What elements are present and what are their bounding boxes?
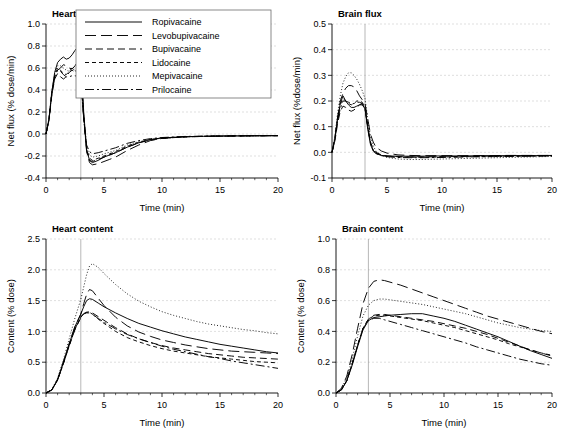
y-tick-label: 0.0 <box>317 388 330 398</box>
y-tick-label: 1.0 <box>27 327 40 337</box>
y-tick-label: 0.5 <box>27 357 40 367</box>
legend-label-bupivacaine: Bupivacaine <box>152 44 201 54</box>
x-axis-title: Time (min) <box>139 417 184 428</box>
panel-brain-flux: -0.10.00.10.20.30.40.505101520Time (min)… <box>290 0 563 215</box>
y-tick-label: 0.4 <box>313 45 326 55</box>
legend-label-mepivacaine: Mepivacaine <box>152 71 203 81</box>
y-tick-label: 1.0 <box>27 19 40 29</box>
x-tick-label: 10 <box>157 185 167 195</box>
x-tick-label: 10 <box>157 400 167 410</box>
x-axis-title: Time (min) <box>421 417 466 428</box>
y-axis-title: Content (% dose) <box>295 279 306 353</box>
y-tick-label: 0.8 <box>317 265 330 275</box>
panel-title: Heart content <box>52 223 114 234</box>
y-tick-label: 0.2 <box>27 107 40 117</box>
heart-content-chart: 0.00.51.01.52.02.505101520Time (min)Cont… <box>0 215 290 430</box>
x-tick-label: 0 <box>329 185 334 195</box>
y-tick-label: -0.1 <box>310 173 326 183</box>
x-tick-label: 10 <box>439 400 449 410</box>
y-tick-label: 0.1 <box>313 122 326 132</box>
y-tick-label: 0.0 <box>27 388 40 398</box>
y-tick-label: 0.6 <box>27 63 40 73</box>
brain-content-chart: 0.00.20.40.60.81.005101520Time (min)Cont… <box>290 215 563 430</box>
x-tick-label: 20 <box>547 185 557 195</box>
y-tick-label: 0.4 <box>317 327 330 337</box>
y-tick-label: 0.0 <box>313 148 326 158</box>
y-tick-label: 0.5 <box>313 19 326 29</box>
brain-flux-chart: -0.10.00.10.20.30.40.505101520Time (min)… <box>290 0 563 215</box>
y-axis-title: Net flux (%dose/min) <box>291 57 302 145</box>
legend: RopivacaineLevobupivacaineBupivacaineLid… <box>76 10 271 98</box>
y-tick-label: 1.5 <box>27 296 40 306</box>
legend-label-ropivacaine: Ropivacaine <box>152 17 202 27</box>
y-tick-label: -0.2 <box>24 151 40 161</box>
x-axis-title: Time (min) <box>419 202 464 213</box>
x-tick-label: 20 <box>273 400 283 410</box>
y-tick-label: 0.3 <box>313 71 326 81</box>
y-tick-label: 0.6 <box>317 296 330 306</box>
y-tick-label: 2.5 <box>27 234 40 244</box>
heart-flux-chart: -0.4-0.20.00.20.40.60.81.005101520Time (… <box>0 0 290 215</box>
x-tick-label: 20 <box>547 400 557 410</box>
y-axis-title: Content (% dose) <box>5 279 16 353</box>
panel-title: Brain flux <box>338 8 383 19</box>
panel-brain-content: 0.00.20.40.60.81.005101520Time (min)Cont… <box>290 215 563 430</box>
panel-title: Brain content <box>342 223 404 234</box>
y-tick-label: -0.4 <box>24 173 40 183</box>
x-tick-label: 20 <box>273 185 283 195</box>
y-tick-label: 0.0 <box>27 129 40 139</box>
y-tick-label: 0.4 <box>27 85 40 95</box>
x-tick-label: 0 <box>333 400 338 410</box>
panel-heart-flux: -0.4-0.20.00.20.40.60.81.005101520Time (… <box>0 0 290 215</box>
x-tick-label: 5 <box>387 400 392 410</box>
y-tick-label: 0.8 <box>27 41 40 51</box>
legend-label-levobupivacaine: Levobupivacaine <box>152 31 220 41</box>
panel-heart-content: 0.00.51.01.52.02.505101520Time (min)Cont… <box>0 215 290 430</box>
x-tick-label: 5 <box>384 185 389 195</box>
y-tick-label: 0.2 <box>313 96 326 106</box>
x-tick-label: 15 <box>493 400 503 410</box>
y-axis-title: Net flux (% dose/min) <box>5 56 16 147</box>
x-tick-label: 15 <box>215 400 225 410</box>
legend-label-lidocaine: Lidocaine <box>152 58 191 68</box>
x-tick-label: 0 <box>43 185 48 195</box>
x-tick-label: 0 <box>43 400 48 410</box>
y-tick-label: 0.2 <box>317 357 330 367</box>
legend-label-prilocaine: Prilocaine <box>152 85 192 95</box>
x-tick-label: 15 <box>492 185 502 195</box>
x-tick-label: 10 <box>437 185 447 195</box>
x-tick-label: 5 <box>101 185 106 195</box>
x-tick-label: 5 <box>101 400 106 410</box>
x-axis-title: Time (min) <box>139 202 184 213</box>
y-tick-label: 1.0 <box>317 234 330 244</box>
figure-container: -0.4-0.20.00.20.40.60.81.005101520Time (… <box>0 0 563 430</box>
x-tick-label: 15 <box>215 185 225 195</box>
y-tick-label: 2.0 <box>27 265 40 275</box>
